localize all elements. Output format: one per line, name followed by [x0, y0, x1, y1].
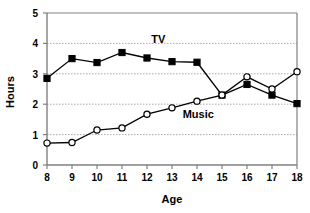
data-point-tv-11 — [119, 49, 125, 55]
x-tick-label-11: 11 — [117, 172, 128, 183]
data-point-music-12 — [144, 111, 150, 117]
y-axis-title: Hours — [4, 76, 16, 108]
data-point-tv-8 — [44, 75, 50, 81]
data-point-music-18 — [294, 69, 300, 75]
x-tick-label-10: 10 — [91, 172, 103, 183]
y-tick-label-1: 1 — [32, 130, 38, 141]
axes — [43, 13, 297, 169]
series-annotations: TVMusic — [151, 33, 214, 120]
gridlines — [47, 43, 297, 134]
data-point-music-16 — [244, 74, 250, 80]
data-point-music-11 — [119, 125, 125, 131]
x-tick-label-9: 9 — [69, 172, 75, 183]
series-lines — [47, 53, 297, 144]
x-axis-title: Age — [162, 193, 183, 205]
x-axis-tick-labels: 89101112131415161718 — [44, 172, 303, 183]
data-point-tv-14 — [194, 59, 200, 65]
data-point-tv-16 — [244, 81, 250, 87]
data-point-music-15 — [219, 92, 225, 98]
x-tick-label-17: 17 — [266, 172, 278, 183]
data-point-tv-10 — [94, 59, 100, 65]
series-label-tv: TV — [151, 33, 166, 45]
data-point-music-8 — [44, 140, 50, 146]
series-markers — [44, 49, 300, 146]
data-point-tv-9 — [69, 56, 75, 62]
y-tick-label-5: 5 — [32, 8, 38, 19]
x-tick-label-12: 12 — [141, 172, 153, 183]
y-tick-label-3: 3 — [32, 69, 38, 80]
x-tick-label-13: 13 — [166, 172, 178, 183]
line-chart: 012345 89101112131415161718 TVMusic Hour… — [0, 0, 310, 213]
y-tick-label-0: 0 — [32, 160, 38, 171]
y-tick-label-2: 2 — [32, 99, 38, 110]
data-point-tv-17 — [269, 92, 275, 98]
series-label-music: Music — [183, 108, 214, 120]
x-tick-label-15: 15 — [216, 172, 228, 183]
data-point-tv-12 — [144, 55, 150, 61]
data-point-music-13 — [169, 105, 175, 111]
data-point-music-14 — [194, 98, 200, 104]
data-point-music-9 — [69, 139, 75, 145]
data-point-tv-18 — [294, 100, 300, 106]
data-point-tv-13 — [169, 59, 175, 65]
y-tick-label-4: 4 — [32, 38, 38, 49]
x-tick-label-14: 14 — [191, 172, 203, 183]
x-tick-label-8: 8 — [44, 172, 50, 183]
data-point-music-17 — [269, 86, 275, 92]
x-tick-label-18: 18 — [291, 172, 303, 183]
x-tick-label-16: 16 — [241, 172, 253, 183]
chart-container: 012345 89101112131415161718 TVMusic Hour… — [0, 0, 310, 213]
data-point-music-10 — [94, 127, 100, 133]
y-axis-tick-labels: 012345 — [32, 8, 38, 171]
